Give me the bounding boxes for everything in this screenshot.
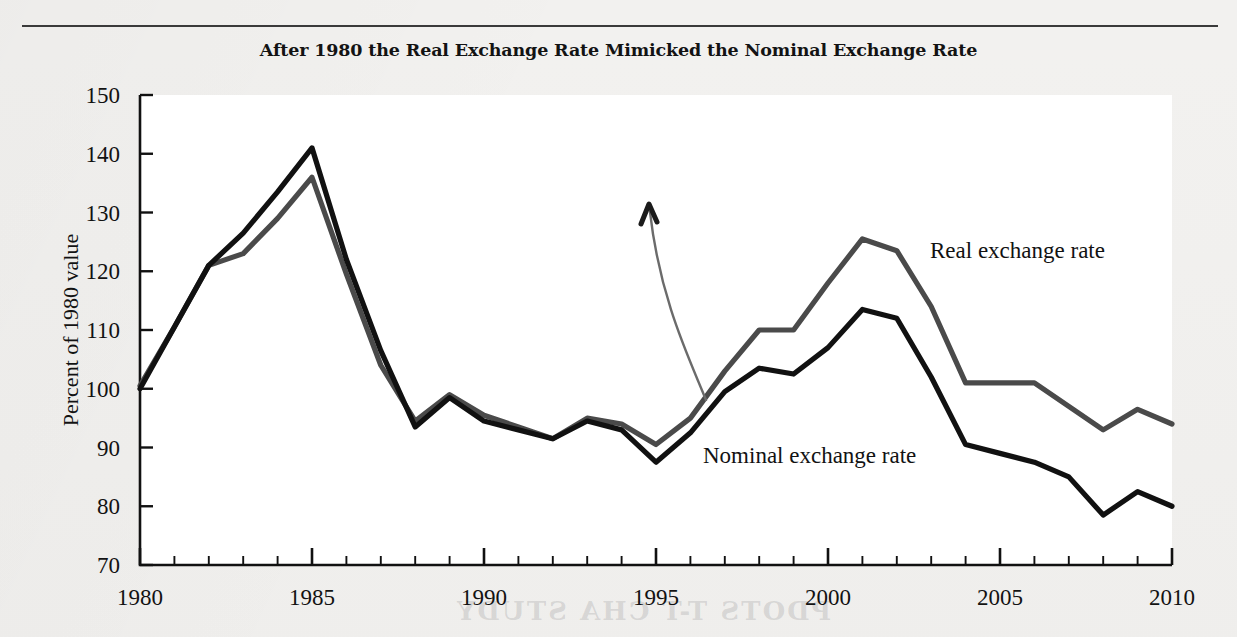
x-axis-tick-label: 2000 [805,585,851,610]
y-axis-tick-label: 80 [97,494,120,519]
x-axis-tick-label: 1980 [117,585,163,610]
x-axis-tick-label: 2010 [1149,585,1195,610]
y-axis-tick-label: 130 [86,201,121,226]
y-axis-tick-label: 140 [86,142,121,167]
series-label-nominal: Nominal exchange rate [703,443,916,468]
x-axis-tick-label: 2005 [977,585,1023,610]
y-axis-tick-label: 150 [86,83,121,108]
series-label-real: Real exchange rate [930,238,1105,263]
line-chart: 708090100110120130140150Percent of 1980 … [0,0,1237,637]
y-axis-title: Percent of 1980 value [58,234,83,426]
x-axis-tick-label: 1985 [289,585,335,610]
y-axis-tick-label: 70 [97,553,120,578]
y-axis-tick-label: 110 [86,318,120,343]
x-axis-tick-label: 1990 [461,585,507,610]
y-axis-tick-label: 90 [97,436,120,461]
x-axis-tick-label: 1995 [633,585,679,610]
plot-area-background [140,95,1172,565]
figure-container: After 1980 the Real Exchange Rate Mimick… [0,0,1237,637]
y-axis-tick-label: 120 [86,259,121,284]
y-axis-tick-label: 100 [86,377,121,402]
